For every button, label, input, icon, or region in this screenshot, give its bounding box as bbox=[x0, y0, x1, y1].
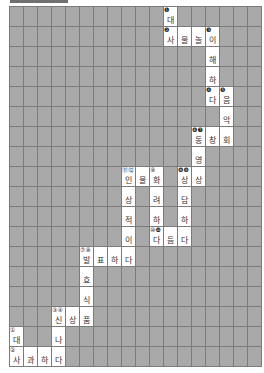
crossword-cell[interactable]: 다 bbox=[122, 247, 135, 266]
cell-letter: 담 bbox=[181, 194, 188, 205]
crossword-cell[interactable]: 품 bbox=[80, 307, 93, 326]
crossword-grid: ❶대❷사물놀❸이해하❹다❺음악❻❼동창회영❽❾상상⑪⑫인물⑨화상려담적하하이⑩❿… bbox=[9, 6, 262, 367]
crossword-cell[interactable]: 과 bbox=[24, 347, 37, 366]
crossword-cell[interactable]: 담 bbox=[178, 187, 191, 206]
cell-letter: 사 bbox=[167, 34, 174, 45]
cell-letter: 대 bbox=[167, 14, 174, 25]
clue-number: ❺ bbox=[220, 87, 225, 93]
crossword-cell[interactable]: 물 bbox=[136, 167, 149, 186]
clue-number: ③④ bbox=[52, 307, 63, 313]
clue-number: ⑦⑧ bbox=[80, 247, 91, 253]
crossword-cell[interactable]: ❽❾상 bbox=[178, 167, 191, 186]
cell-letter: 악 bbox=[223, 114, 230, 125]
crossword-cell[interactable]: 상 bbox=[66, 307, 79, 326]
cell-letter: 려 bbox=[153, 194, 160, 205]
crossword-cell[interactable]: 표 bbox=[94, 247, 107, 266]
crossword-cell[interactable]: 영 bbox=[192, 147, 205, 166]
cell-letter: 인 bbox=[125, 174, 132, 185]
cell-letter: 듬 bbox=[167, 234, 174, 245]
clue-number: ⑨ bbox=[150, 167, 155, 173]
cell-letter: 하 bbox=[153, 214, 160, 225]
crossword-cell[interactable]: ⑩❿다 bbox=[150, 227, 163, 246]
cell-letter: 창 bbox=[209, 134, 216, 145]
crossword-cell[interactable]: 나 bbox=[52, 327, 65, 346]
clue-number: ❽❾ bbox=[178, 167, 189, 173]
cell-letter: 물 bbox=[181, 34, 188, 45]
crossword-cell[interactable]: ③④신 bbox=[52, 307, 65, 326]
crossword-cell[interactable]: ②사 bbox=[10, 347, 23, 366]
cell-letter: 품 bbox=[83, 314, 90, 325]
clue-number: ❶ bbox=[164, 7, 169, 13]
cell-letter: 나 bbox=[55, 334, 62, 345]
cell-letter: 다 bbox=[209, 94, 216, 105]
cell-letter: 하 bbox=[181, 214, 188, 225]
crossword-cell[interactable]: 효 bbox=[80, 267, 93, 286]
crossword-cell[interactable]: ❶대 bbox=[164, 7, 177, 26]
cell-letter: 신 bbox=[55, 314, 62, 325]
cell-letter: 효 bbox=[83, 274, 90, 285]
clue-number: ⑩❿ bbox=[150, 227, 161, 233]
crossword-cell[interactable]: 회 bbox=[220, 127, 233, 146]
cell-letter: 적 bbox=[125, 214, 132, 225]
crossword-cell[interactable]: ❹다 bbox=[206, 87, 219, 106]
cell-letter: 다 bbox=[125, 254, 132, 265]
clue-number: ❸ bbox=[206, 27, 211, 33]
crossword-cell[interactable]: 상 bbox=[122, 187, 135, 206]
clue-number: ① bbox=[10, 327, 15, 333]
cell-letter: 대 bbox=[13, 334, 20, 345]
crossword-cell[interactable]: 다 bbox=[178, 227, 191, 246]
clue-number: ⑪⑫ bbox=[122, 167, 134, 173]
cell-letter: 회 bbox=[223, 134, 230, 145]
crossword-cell[interactable]: 하 bbox=[178, 207, 191, 226]
crossword-cell[interactable]: ⑨화 bbox=[150, 167, 163, 186]
crossword-cell[interactable]: 하 bbox=[150, 207, 163, 226]
cell-letter: 식 bbox=[83, 294, 90, 305]
crossword-cell[interactable]: ⑪⑫인 bbox=[122, 167, 135, 186]
clue-number: ② bbox=[10, 347, 15, 353]
cell-letter: 다 bbox=[181, 234, 188, 245]
cell-letter: 하 bbox=[111, 254, 118, 265]
cell-letter: 해 bbox=[209, 54, 216, 65]
cell-letter: 화 bbox=[153, 174, 160, 185]
crossword-cell[interactable]: 다 bbox=[52, 347, 65, 366]
crossword-cell[interactable]: 적 bbox=[122, 207, 135, 226]
crossword-cell[interactable]: 하 bbox=[38, 347, 51, 366]
crossword-cell[interactable]: 하 bbox=[206, 67, 219, 86]
cell-letter: 다 bbox=[55, 354, 62, 365]
cell-letter: 사 bbox=[13, 354, 20, 365]
cell-letter: 상 bbox=[195, 174, 202, 185]
cell-letter: 다 bbox=[153, 234, 160, 245]
crossword-cell[interactable]: 놀 bbox=[192, 27, 205, 46]
cell-letter: 이 bbox=[209, 34, 216, 45]
crossword-cell[interactable]: ❸이 bbox=[206, 27, 219, 46]
clue-number: ❹ bbox=[206, 87, 211, 93]
crossword-cell[interactable]: ❻❼동 bbox=[192, 127, 205, 146]
crossword-cell[interactable]: ⑦⑧발 bbox=[80, 247, 93, 266]
crossword-cell[interactable]: 해 bbox=[206, 47, 219, 66]
crossword-cell[interactable]: 창 bbox=[206, 127, 219, 146]
cell-letter: 하 bbox=[41, 354, 48, 365]
clue-number: ❷ bbox=[164, 27, 169, 33]
crossword-cell[interactable]: 이 bbox=[122, 227, 135, 246]
crossword-cell[interactable]: 악 bbox=[220, 107, 233, 126]
crossword-cell[interactable]: ❷사 bbox=[164, 27, 177, 46]
cell-letter: 상 bbox=[181, 174, 188, 185]
crossword-cell[interactable]: ❺음 bbox=[220, 87, 233, 106]
crossword-cell[interactable]: 하 bbox=[108, 247, 121, 266]
crossword-cell[interactable]: 식 bbox=[80, 287, 93, 306]
cell-letter: 상 bbox=[69, 314, 76, 325]
crossword-cell[interactable]: 상 bbox=[192, 167, 205, 186]
cell-letter: 표 bbox=[97, 254, 104, 265]
crossword-cell[interactable]: 듬 bbox=[164, 227, 177, 246]
crossword-cell[interactable]: 려 bbox=[150, 187, 163, 206]
cell-letter: 음 bbox=[223, 94, 230, 105]
cell-letter: 영 bbox=[195, 154, 202, 165]
clue-number: ❻❼ bbox=[192, 127, 203, 133]
cell-letter: 하 bbox=[209, 74, 216, 85]
header-bar bbox=[10, 0, 68, 3]
cell-letter: 상 bbox=[125, 194, 132, 205]
crossword-cell[interactable]: 물 bbox=[178, 27, 191, 46]
crossword-cell[interactable]: ①대 bbox=[10, 327, 23, 346]
cell-letter: 이 bbox=[125, 234, 132, 245]
cell-letter: 과 bbox=[27, 354, 34, 365]
